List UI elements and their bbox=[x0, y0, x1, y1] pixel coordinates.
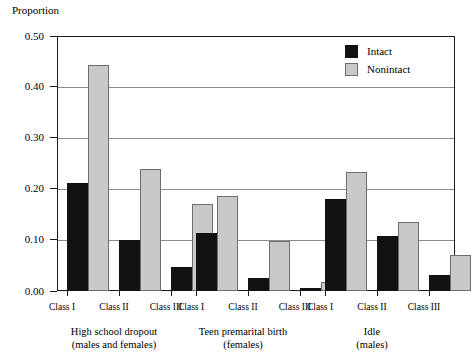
class-label-g0-c0: Class I bbox=[36, 303, 88, 313]
bar-g1-c0-nonintact bbox=[217, 196, 238, 291]
legend-item-intact: Intact bbox=[345, 42, 410, 60]
y-tick-label-0.20: 0.20 bbox=[0, 183, 44, 194]
bar-g2-c0-intact bbox=[325, 199, 346, 291]
y-axis: 0.50 0.40 0.30 0.20 0.10 0.00 bbox=[0, 0, 57, 291]
x-tick-5 bbox=[300, 291, 301, 296]
y-tick-mark-0.30 bbox=[50, 137, 57, 138]
class-label-g0-c1: Class II bbox=[88, 303, 140, 313]
y-tick-mark-0.50 bbox=[50, 36, 57, 37]
legend-swatch-intact bbox=[345, 45, 358, 58]
x-tick-1 bbox=[119, 291, 120, 296]
legend-label-nonintact: Nonintact bbox=[367, 64, 410, 75]
group-caption-2-line1: Idle bbox=[364, 326, 380, 337]
group-caption-0-line1: High school dropout bbox=[71, 326, 157, 337]
y-tick-label-0.10: 0.10 bbox=[0, 234, 44, 245]
class-label-g1-c1: Class II bbox=[217, 303, 269, 313]
bar-g2-c1-intact bbox=[377, 236, 398, 291]
x-tick-8 bbox=[429, 291, 430, 296]
bar-g2-c1-nonintact bbox=[398, 222, 419, 291]
group-caption-1-line2: (females) bbox=[223, 339, 263, 350]
x-tick-2 bbox=[171, 291, 172, 296]
bar-g1-c1-intact bbox=[248, 278, 269, 291]
bar-g2-c2-intact bbox=[429, 275, 450, 291]
legend-item-nonintact: Nonintact bbox=[345, 60, 410, 78]
group-caption-0-line2: (males and females) bbox=[72, 339, 157, 350]
y-tick-mark-0.40 bbox=[50, 86, 57, 87]
bar-g0-c1-nonintact bbox=[140, 169, 161, 291]
group-caption-2: Idle (males) bbox=[287, 325, 457, 351]
y-tick-label-0.40: 0.40 bbox=[0, 81, 44, 92]
group-caption-1-line1: Teen premarital birth bbox=[199, 326, 287, 337]
x-tick-0 bbox=[67, 291, 68, 296]
legend-swatch-nonintact bbox=[345, 63, 358, 76]
y-tick-mark-0.20 bbox=[50, 188, 57, 189]
legend: Intact Nonintact bbox=[345, 42, 410, 78]
bar-g0-c0-nonintact bbox=[88, 65, 109, 291]
y-tick-label-0.50: 0.50 bbox=[0, 31, 44, 42]
y-tick-mark-0.10 bbox=[50, 239, 57, 240]
group-caption-2-line2: (males) bbox=[356, 339, 388, 350]
x-tick-6 bbox=[325, 291, 326, 296]
bar-g2-c2-nonintact bbox=[450, 255, 471, 291]
bar-g0-c1-intact bbox=[119, 240, 140, 292]
y-tick-mark-0.00 bbox=[50, 291, 57, 292]
class-label-g1-c0: Class I bbox=[165, 303, 217, 313]
bar-g1-c1-nonintact bbox=[269, 241, 290, 291]
x-tick-4 bbox=[248, 291, 249, 296]
class-label-g2-c2: Class III bbox=[396, 303, 452, 313]
bar-g1-c0-intact bbox=[196, 233, 217, 291]
bar-g2-c0-nonintact bbox=[346, 172, 367, 291]
class-label-g2-c1: Class II bbox=[346, 303, 398, 313]
bar-g0-c2-intact bbox=[171, 267, 192, 291]
class-label-g2-c0: Class I bbox=[294, 303, 346, 313]
y-tick-label-0.30: 0.30 bbox=[0, 132, 44, 143]
y-tick-label-0.00: 0.00 bbox=[0, 286, 44, 297]
bar-g0-c0-intact bbox=[67, 183, 88, 291]
x-tick-3 bbox=[196, 291, 197, 296]
x-tick-7 bbox=[377, 291, 378, 296]
bar-g1-c2-intact bbox=[300, 288, 321, 291]
legend-label-intact: Intact bbox=[367, 46, 392, 57]
